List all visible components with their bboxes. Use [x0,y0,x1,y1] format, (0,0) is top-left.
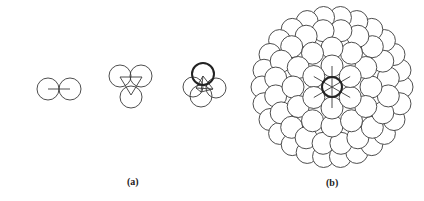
panel-a-label: (a) [127,177,139,187]
atom-circle [109,65,131,87]
bond-line [196,88,213,89]
atom-circle [130,65,152,87]
tetramer-cluster [183,63,226,107]
cluster-figure [0,0,424,201]
atom-circle [341,42,363,64]
trimer-cluster [109,65,152,108]
panel-a-small-clusters [37,63,226,108]
central-atom-circle [192,63,214,85]
atom-circle [302,110,324,132]
atom-circle [360,76,382,98]
panel-b-large-cluster [251,7,413,168]
panel-b-label: (b) [326,178,338,188]
dimer-cluster [37,78,81,100]
atom-circle [282,76,304,98]
atom-circle [120,86,142,108]
